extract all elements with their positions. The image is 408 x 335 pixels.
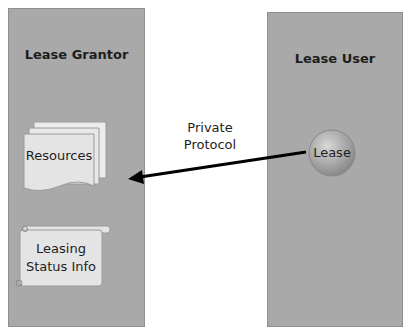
arrow-label-line1: Private [170,120,250,136]
status-label-line1: Leasing [20,241,102,257]
status-label-line2: Status Info [20,259,102,275]
arrow-label-line2: Protocol [170,137,250,153]
private-protocol-arrow [128,152,306,184]
resources-label: Resources [24,148,94,164]
lease-label: Lease [309,145,355,161]
